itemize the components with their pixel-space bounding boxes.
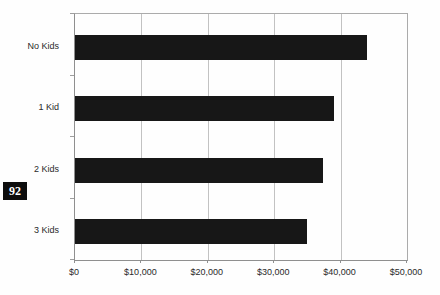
x-tick-mark bbox=[74, 260, 75, 263]
y-tick-mark bbox=[70, 75, 74, 76]
x-tick-mark bbox=[140, 260, 141, 263]
bar-2-kids bbox=[75, 158, 323, 183]
x-tick-label: $40,000 bbox=[308, 267, 372, 278]
category-label-no-kids: No Kids bbox=[0, 41, 66, 52]
x-tick-label: $20,000 bbox=[175, 267, 239, 278]
x-tick-mark bbox=[340, 260, 341, 263]
category-label-1-kid: 1 Kid bbox=[0, 102, 66, 113]
plot-area bbox=[74, 13, 408, 261]
x-tick-label: $0 bbox=[42, 267, 106, 278]
y-tick-mark bbox=[70, 198, 74, 199]
x-tick-mark bbox=[273, 260, 274, 263]
category-label-2-kids: 2 Kids bbox=[0, 164, 66, 175]
y-tick-mark bbox=[70, 136, 74, 137]
x-tick-mark bbox=[207, 260, 208, 263]
category-label-3-kids: 3 Kids bbox=[0, 225, 66, 236]
y-tick-mark bbox=[70, 259, 74, 260]
book-page: 92 No Kids1 Kid2 Kids3 Kids $0$10,000$20… bbox=[0, 0, 440, 295]
x-tick-mark bbox=[406, 260, 407, 263]
x-tick-label: $10,000 bbox=[108, 267, 172, 278]
x-tick-label: $50,000 bbox=[374, 267, 438, 278]
x-tick-label: $30,000 bbox=[241, 267, 305, 278]
bar-3-kids bbox=[75, 219, 307, 244]
y-tick-mark bbox=[70, 13, 74, 14]
bar-chart: No Kids1 Kid2 Kids3 Kids $0$10,000$20,00… bbox=[0, 0, 440, 295]
bar-1-kid bbox=[75, 96, 334, 121]
bar-no-kids bbox=[75, 35, 367, 60]
